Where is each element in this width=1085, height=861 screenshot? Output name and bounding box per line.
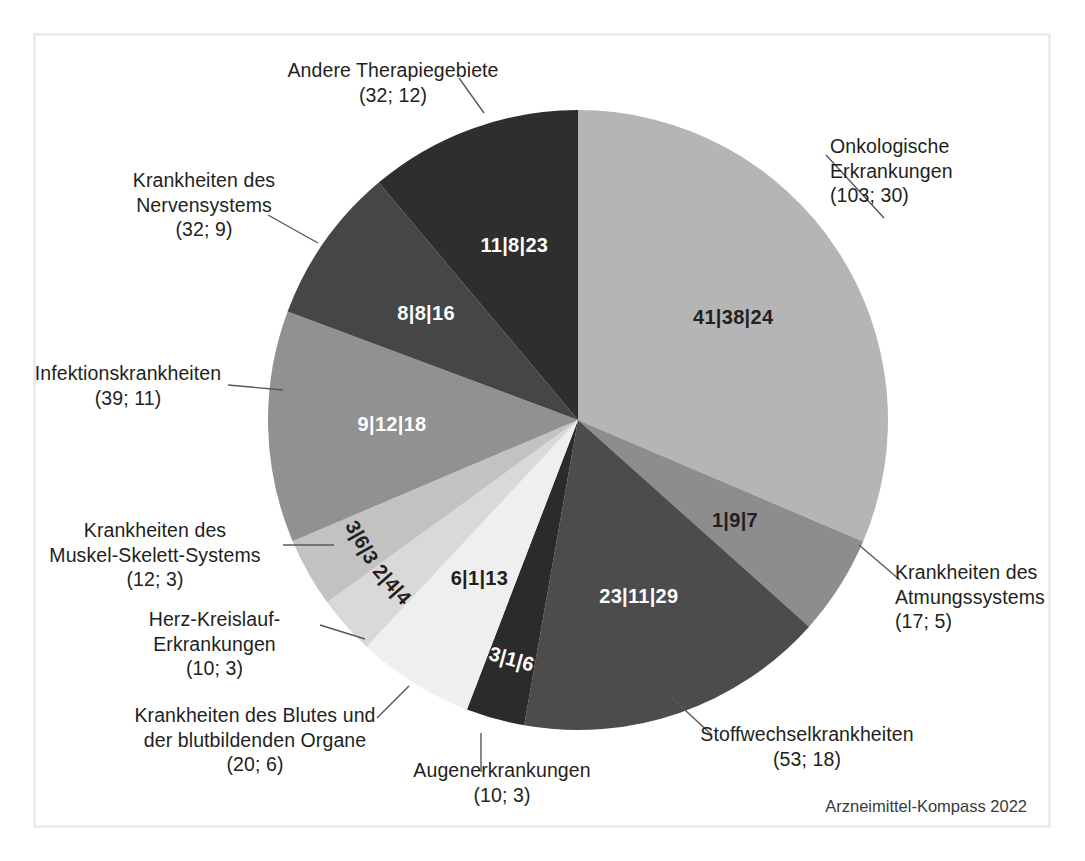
pie-chart-figure: 41|38|241|9|723|11|293|1|66|1|132|4|43|6… xyxy=(0,0,1085,861)
callout-krankheiten-des-nervensystems: Krankheiten des Nervensystems (32; 9) xyxy=(100,168,308,242)
pie-slice-value-label: 23|11|29 xyxy=(599,585,678,607)
pie-slice-value-label: 9|12|18 xyxy=(358,413,427,435)
pie-slice-value-label: 6|1|13 xyxy=(451,567,508,589)
callout-krankheiten-des-muskel-skelett-systems: Krankheiten des Muskel-Skelett-Systems (… xyxy=(30,518,280,592)
callout-krankheiten-des-atmungssystems: Krankheiten des Atmungssystems (17; 5) xyxy=(895,560,1075,634)
callout-augenerkrankungen: Augenerkrankungen (10; 3) xyxy=(388,758,616,807)
pie-slice-value-label: 41|38|24 xyxy=(693,306,774,328)
callout-herz-kreislauf-erkrankungen: Herz-Kreislauf- Erkrankungen (10; 3) xyxy=(112,607,317,681)
callout-infektionskrankheiten: Infektionskrankheiten (39; 11) xyxy=(28,361,228,410)
leader-line-atmungssystem xyxy=(859,545,900,580)
callout-andere-therapiegebiete: Andere Therapiegebiete (32; 12) xyxy=(238,58,548,107)
callout-stoffwechselkrankheiten: Stoffwechselkrankheiten (53; 18) xyxy=(662,722,952,771)
pie-slice-value-label: 1|9|7 xyxy=(712,509,758,531)
pie-slice-value-label: 11|8|23 xyxy=(480,234,548,256)
callout-onkologische-erkrankungen: Onkologische Erkrankungen (103; 30) xyxy=(830,134,1045,208)
source-note: Arzneimittel-Kompass 2022 xyxy=(825,797,1027,816)
callout-krankheiten-des-blutes: Krankheiten des Blutes und der blutbilde… xyxy=(105,703,405,777)
pie-slice-value-label: 8|8|16 xyxy=(397,302,454,324)
